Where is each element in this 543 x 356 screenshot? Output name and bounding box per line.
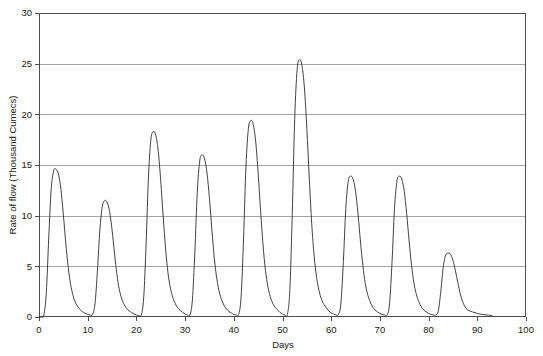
x-tick-label-30: 30: [180, 324, 191, 335]
x-tick-label-100: 100: [518, 324, 534, 335]
y-tick-label-5: 5: [27, 261, 32, 272]
chart-svg: 051015202530 0102030405060708090100 Days…: [0, 0, 543, 356]
y-tick-label-10: 10: [21, 210, 32, 221]
x-tick-label-50: 50: [277, 324, 288, 335]
grid-lines: [39, 65, 526, 267]
x-axis-title: Days: [272, 339, 294, 350]
y-tick-label-20: 20: [21, 109, 32, 120]
x-tick-label-0: 0: [36, 324, 41, 335]
x-tick-label-80: 80: [423, 324, 434, 335]
x-tick-label-60: 60: [326, 324, 337, 335]
axis-ticks: [35, 14, 527, 322]
y-tick-label-15: 15: [21, 159, 32, 170]
y-tick-label-30: 30: [21, 7, 32, 18]
y-tick-label-0: 0: [27, 311, 32, 322]
flow-rate-chart: 051015202530 0102030405060708090100 Days…: [0, 0, 543, 356]
x-tick-label-40: 40: [229, 324, 240, 335]
x-tick-label-20: 20: [131, 324, 142, 335]
series-path-rate-of-flow: [39, 59, 492, 317]
y-axis-tick-labels: 051015202530: [21, 7, 32, 322]
x-tick-label-70: 70: [375, 324, 386, 335]
x-tick-label-10: 10: [82, 324, 93, 335]
data-series-flow-rate: [39, 59, 492, 317]
x-tick-label-90: 90: [472, 324, 483, 335]
y-axis-title: Rate of flow (Thousand Cumecs): [7, 96, 18, 235]
y-tick-label-25: 25: [21, 58, 32, 69]
x-axis-tick-labels: 0102030405060708090100: [36, 324, 534, 335]
